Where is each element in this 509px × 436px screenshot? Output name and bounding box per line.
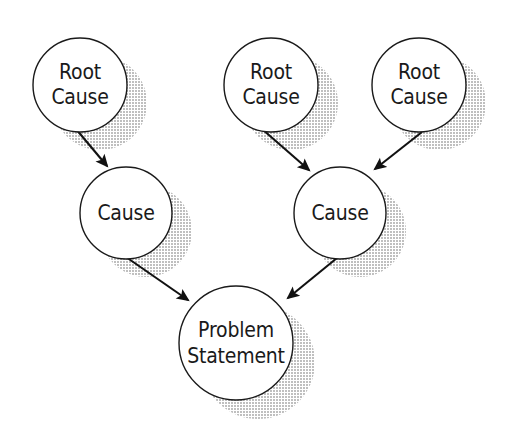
node-root-cause-middle[interactable] [224,38,318,132]
arrow-cause2-to-problem [288,258,337,298]
node-root-cause-right[interactable] [372,38,466,132]
arrow-root3-to-cause2 [375,132,422,169]
root-cause-diagram: Root Cause Root Cause Root Cause Cause C… [0,0,509,436]
node-problem-statement[interactable] [179,286,293,400]
node-cause-left[interactable] [80,167,172,259]
node-root-cause-left[interactable] [33,38,127,132]
node-cause-right[interactable] [294,167,386,259]
